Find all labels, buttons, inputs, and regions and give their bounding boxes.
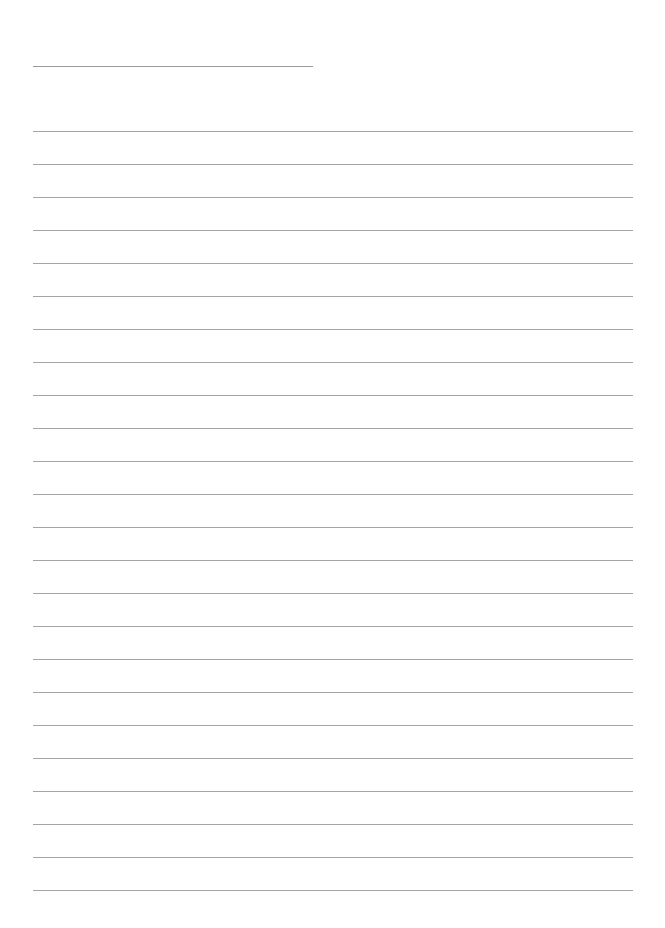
ruled-line xyxy=(33,362,633,363)
ruled-line xyxy=(33,461,633,462)
ruled-line xyxy=(33,329,633,330)
ruled-line xyxy=(33,131,633,132)
ruled-line xyxy=(33,890,633,891)
ruled-line xyxy=(33,197,633,198)
ruled-line xyxy=(33,494,633,495)
ruled-line xyxy=(33,758,633,759)
ruled-line xyxy=(33,527,633,528)
ruled-line xyxy=(33,263,633,264)
ruled-line xyxy=(33,692,633,693)
ruled-line xyxy=(33,560,633,561)
ruled-line xyxy=(33,164,633,165)
ruled-line xyxy=(33,791,633,792)
ruled-line xyxy=(33,395,633,396)
ruled-line xyxy=(33,593,633,594)
title-line xyxy=(33,66,313,67)
ruled-line xyxy=(33,725,633,726)
ruled-line xyxy=(33,659,633,660)
ruled-line xyxy=(33,626,633,627)
ruled-line xyxy=(33,857,633,858)
ruled-line xyxy=(33,428,633,429)
ruled-line xyxy=(33,824,633,825)
ruled-line xyxy=(33,296,633,297)
ruled-line xyxy=(33,230,633,231)
